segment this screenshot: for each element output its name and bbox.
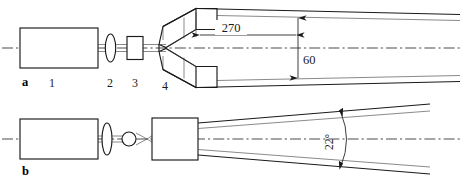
beam-a-lower-inner [217, 76, 460, 81]
horn-upper-inner [166, 30, 196, 48]
diagram-canvas: 270 60 a 1 2 3 4 [0, 0, 462, 180]
dim-60-value: 60 [303, 53, 316, 67]
lens-a [105, 34, 115, 62]
optical-diagram-figure: 270 60 a 1 2 3 4 [0, 0, 462, 180]
part-label-1: 1 [49, 76, 55, 90]
aperture-a [127, 37, 143, 60]
dim-270-value: 270 [222, 21, 241, 35]
laser-body-a [20, 28, 98, 68]
part-label-2: 2 [107, 76, 113, 90]
beam-a-lower-outer [196, 82, 460, 88]
angle-arc-b [341, 113, 347, 166]
lens-b-primary [102, 123, 112, 155]
pinhole-lens-b [122, 132, 136, 146]
dim-22deg-value: 22° [323, 134, 335, 151]
beam-a-upper-inner [217, 16, 460, 21]
laser-body-b [20, 119, 98, 159]
beam-a-upper-outer [196, 9, 460, 15]
panel-a: 270 60 a 1 2 3 4 [2, 9, 460, 94]
horn-lower-mouth [196, 67, 217, 88]
part-label-4: 4 [162, 79, 168, 93]
module-box-b [152, 118, 198, 160]
panel-b: 22° b [2, 104, 460, 178]
panel-label-a: a [22, 75, 29, 89]
horn-upper-shell [159, 9, 196, 48]
panel-label-b: b [22, 164, 29, 178]
part-label-3: 3 [132, 76, 138, 90]
angle-label-group: 22° [323, 134, 335, 151]
horn-lower-inner [166, 49, 196, 67]
horn-upper-edge-top [163, 9, 196, 27]
horn-upper-mouth [196, 9, 217, 30]
